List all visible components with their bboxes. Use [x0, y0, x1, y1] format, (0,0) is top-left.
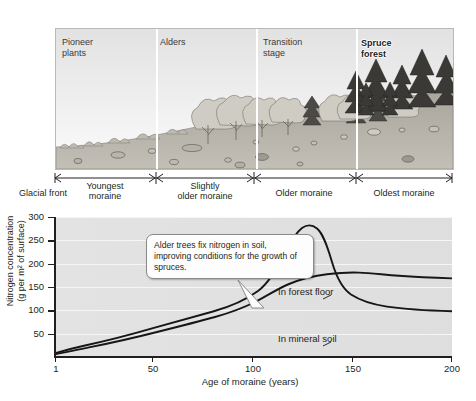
panel-divider-1: [156, 29, 158, 169]
moraine-label-oldest: Oldest moraine: [354, 188, 454, 198]
x-label-1: 1: [41, 363, 71, 374]
panel-divider-3: [356, 29, 358, 169]
y-tick-100: [48, 310, 54, 311]
y-tick-300: [48, 217, 54, 218]
illustration-scene: [56, 29, 453, 169]
moraine-label-youngest: Youngest moraine: [63, 181, 147, 201]
x-label-200: 200: [437, 363, 467, 374]
moraine-label-older: Older moraine: [254, 188, 354, 198]
x-tick-200: [451, 357, 452, 362]
series-label-in-mineral-soil: In mineral soil: [278, 333, 337, 344]
succession-illustration: Pioneer plants Alders Transition stage S…: [55, 28, 454, 170]
stage-label-spruce-forest: Spruce forest: [361, 38, 392, 59]
x-label-100: 100: [238, 363, 268, 374]
x-axis-title-text: Age of moraine (years): [202, 376, 299, 387]
stage-label-transition-stage: Transition stage: [263, 37, 302, 58]
stage-label-pioneer-plants: Pioneer plants: [62, 37, 93, 58]
x-tick-1: [55, 357, 56, 362]
stage-label-alders: Alders: [160, 37, 186, 48]
annotation-callout: Alder trees fix nitrogen in soil, improv…: [146, 234, 314, 279]
y-tick-150: [48, 287, 54, 288]
y-label-50: 50: [18, 328, 44, 339]
y-tick-250: [48, 240, 54, 241]
y-axis-line: [54, 217, 56, 357]
moraine-scale-bar: Glacial front Youngest moraine Slightly …: [0, 170, 476, 204]
panel-divider-2: [256, 29, 258, 169]
y-axis-title: Nitrogen concentration (g per m² of surf…: [5, 201, 27, 321]
x-label-150: 150: [338, 363, 368, 374]
moraine-label-slightly-older: Slightly older moraine: [163, 181, 247, 201]
x-label-50: 50: [138, 363, 168, 374]
callout-pointer: [230, 278, 300, 323]
y-tick-200: [48, 264, 54, 265]
x-tick-150: [352, 357, 353, 362]
x-axis-title: Age of moraine (years): [0, 376, 476, 387]
x-tick-50: [152, 357, 153, 362]
x-tick-100: [252, 357, 253, 362]
y-tick-50: [48, 334, 54, 335]
